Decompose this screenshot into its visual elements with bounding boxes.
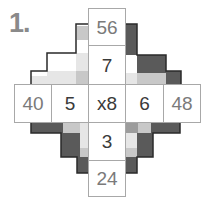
cell-top-outer: 56: [88, 8, 126, 46]
cell-center-operator: x8: [88, 84, 126, 123]
cell-right-outer: 48: [163, 84, 201, 123]
cell-left-outer: 40: [14, 84, 52, 123]
cell-left-inner: 5: [51, 84, 89, 123]
cell-bottom-inner: 3: [88, 122, 126, 161]
cell-right-inner: 6: [125, 84, 164, 123]
cell-top-inner: 7: [88, 45, 126, 85]
cell-bottom-outer: 24: [88, 160, 126, 197]
